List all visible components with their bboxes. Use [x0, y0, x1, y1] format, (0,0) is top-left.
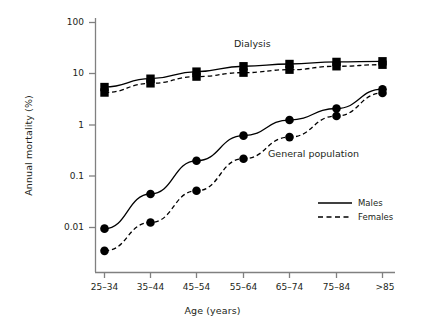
- legend-label-males: Males: [358, 198, 383, 208]
- x-axis-title: Age (years): [0, 305, 425, 316]
- axis-lines: [95, 18, 395, 273]
- data-point-3-1: [146, 218, 155, 227]
- data-point-1-4: [285, 65, 293, 73]
- data-point-3-4: [285, 133, 294, 142]
- annotation-general-population: General population: [268, 148, 359, 159]
- data-point-1-3: [239, 68, 247, 76]
- data-point-1-5: [332, 62, 340, 70]
- y-tick-label-0.1: 0.1: [44, 171, 84, 181]
- data-point-1-0: [100, 88, 108, 96]
- data-point-1-1: [146, 79, 154, 87]
- data-point-3-2: [192, 187, 201, 196]
- data-point-2-5: [332, 104, 341, 113]
- legend-label-females: Females: [358, 212, 393, 222]
- y-axis-title: Annual mortality (%): [23, 71, 34, 221]
- series-line-3: [105, 93, 383, 251]
- y-tick-label-0.01: 0.01: [44, 222, 84, 232]
- x-tick-label-over-85: >85: [355, 282, 415, 292]
- y-axis-ticks: [89, 23, 95, 228]
- data-point-2-4: [285, 116, 294, 125]
- data-point-3-0: [100, 247, 109, 256]
- data-point-2-3: [239, 131, 248, 140]
- data-point-3-3: [239, 154, 248, 163]
- y-tick-label-100: 100: [44, 17, 84, 27]
- legend-swatches: [318, 203, 352, 217]
- data-point-2-1: [146, 190, 155, 199]
- data-point-3-6: [378, 89, 387, 98]
- y-tick-label-1: 1: [44, 120, 84, 130]
- data-point-3-5: [332, 112, 341, 121]
- annotation-dialysis: Dialysis: [234, 38, 271, 49]
- data-point-2-0: [100, 224, 109, 233]
- chart-figure: 100 10 1 0.1 0.01 25–34 35–44 45–54 55–6…: [0, 0, 425, 331]
- data-point-1-2: [192, 72, 200, 80]
- data-point-1-6: [378, 61, 386, 69]
- y-tick-label-10: 10: [44, 68, 84, 78]
- data-point-2-2: [192, 157, 201, 166]
